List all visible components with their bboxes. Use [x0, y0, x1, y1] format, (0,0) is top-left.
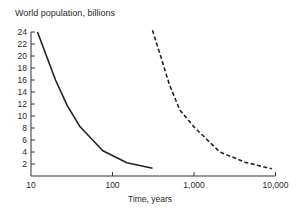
y-tick-label: 10 — [18, 111, 28, 121]
y-tick-label: 4 — [22, 147, 27, 157]
y-axis-ticks: 24681012141618202224 — [18, 27, 35, 169]
x-tick-label: 10 — [26, 180, 36, 190]
y-tick-label: 12 — [18, 99, 28, 109]
line-chart: 24681012141618202224 101001,00010,000 — [0, 0, 305, 213]
y-tick-label: 24 — [18, 27, 28, 37]
x-axis-ticks: 101001,00010,000 — [26, 172, 289, 190]
solid-series-line — [38, 32, 153, 168]
y-tick-label: 2 — [22, 159, 27, 169]
x-tick-label: 100 — [105, 180, 119, 190]
x-axis-label: Time, years — [128, 194, 172, 204]
y-tick-label: 6 — [22, 135, 27, 145]
y-tick-label: 20 — [18, 51, 28, 61]
chart-series — [38, 30, 272, 169]
y-tick-label: 18 — [18, 63, 28, 73]
chart-axes — [31, 32, 276, 176]
y-tick-label: 8 — [22, 123, 27, 133]
dashed-series-line — [153, 30, 272, 169]
x-tick-label: 1,000 — [183, 180, 205, 190]
y-tick-label: 16 — [18, 75, 28, 85]
y-tick-label: 22 — [18, 39, 28, 49]
y-tick-label: 14 — [18, 87, 28, 97]
x-tick-label: 10,000 — [263, 180, 289, 190]
